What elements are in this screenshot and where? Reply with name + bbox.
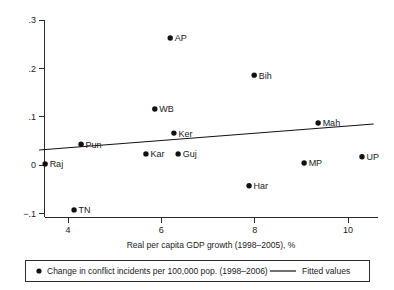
y-tick-label: .3 xyxy=(28,15,36,25)
data-point: WB xyxy=(152,104,174,114)
data-point-label: Guj xyxy=(183,149,197,159)
y-tick-label: −.1 xyxy=(23,209,36,219)
data-point-label: Ker xyxy=(178,129,192,139)
data-point: UP xyxy=(359,152,379,162)
data-point-marker-icon xyxy=(168,35,173,40)
data-point-marker-icon xyxy=(359,154,364,159)
data-point-marker-icon xyxy=(152,106,157,111)
data-point-marker-icon xyxy=(301,160,306,165)
y-tick-label: 0 xyxy=(31,160,36,170)
chart-legend: Change in conflict incidents per 100,000… xyxy=(26,261,370,282)
y-tick-label: .1 xyxy=(28,112,36,122)
data-point: MP xyxy=(301,158,322,168)
data-point-label: TN xyxy=(79,205,91,215)
data-point: Pun xyxy=(78,140,101,150)
data-point-label: MP xyxy=(309,158,323,168)
data-point-marker-icon xyxy=(171,130,176,135)
data-point: Mah xyxy=(315,118,340,128)
data-point-label: Har xyxy=(254,181,269,191)
data-point: Bih xyxy=(252,71,272,81)
y-axis-ticks: −.10.1.2.3 xyxy=(23,15,44,218)
data-point: Har xyxy=(246,181,268,191)
data-point: AP xyxy=(168,33,187,43)
x-tick-label: 10 xyxy=(343,225,353,235)
data-point: Kar xyxy=(143,149,164,159)
data-point-marker-icon xyxy=(143,151,148,156)
data-point: TN xyxy=(71,205,90,215)
legend-scatter-marker-icon xyxy=(36,268,41,273)
scatter-plot: −.10.1.2.3 46810 Real per capita GDP gro… xyxy=(0,0,394,290)
data-point-marker-icon xyxy=(71,207,76,212)
data-point-label: UP xyxy=(367,152,380,162)
data-point-label: Pun xyxy=(86,140,102,150)
data-point: Guj xyxy=(175,149,196,159)
legend-fit-label: Fitted values xyxy=(302,266,350,276)
data-point-marker-icon xyxy=(42,161,47,166)
x-axis-title: Real per capita GDP growth (1998–2005), … xyxy=(127,240,296,250)
data-point-marker-icon xyxy=(78,142,83,147)
x-tick-label: 4 xyxy=(65,225,70,235)
data-point: Raj xyxy=(42,159,63,169)
data-point-marker-icon xyxy=(246,183,251,188)
data-point-label: Raj xyxy=(50,159,64,169)
data-points-group: RajTNPunKarWBAPKerGujHarBihMPMahUP xyxy=(42,33,379,215)
data-point-label: AP xyxy=(175,33,187,43)
y-tick-label: .2 xyxy=(28,64,36,74)
data-point: Ker xyxy=(171,129,192,139)
data-point-marker-icon xyxy=(252,72,257,77)
legend-scatter-label: Change in conflict incidents per 100,000… xyxy=(47,266,268,276)
x-tick-label: 6 xyxy=(159,225,164,235)
data-point-label: WB xyxy=(159,104,174,114)
data-point-label: Kar xyxy=(150,149,164,159)
chart-figure: −.10.1.2.3 46810 Real per capita GDP gro… xyxy=(0,0,394,290)
data-point-marker-icon xyxy=(175,151,180,156)
data-point-label: Mah xyxy=(323,118,341,128)
x-axis-ticks: 46810 xyxy=(65,218,353,236)
x-tick-label: 8 xyxy=(252,225,257,235)
data-point-label: Bih xyxy=(259,71,272,81)
data-point-marker-icon xyxy=(315,120,320,125)
